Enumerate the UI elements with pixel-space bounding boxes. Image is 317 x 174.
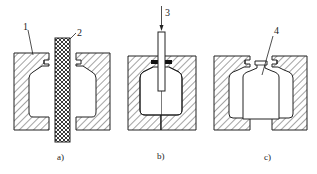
panel-a: 1 2 a)	[14, 21, 110, 162]
caption-b: b)	[157, 151, 165, 161]
blow-pin	[158, 32, 165, 91]
mold-closed-left	[128, 56, 161, 130]
mold-right-half	[76, 53, 110, 130]
panel-b: 3 b)	[128, 6, 196, 161]
caption-c: c)	[264, 152, 271, 162]
air-arrow-head	[160, 25, 164, 31]
caption-a: a)	[57, 152, 64, 162]
callout-3-label: 3	[165, 7, 170, 18]
callout-1-leader	[28, 30, 33, 55]
mold-left-half	[14, 53, 49, 130]
mold-closed-right	[161, 56, 196, 130]
panel-c: 4 c)	[214, 25, 307, 162]
callout-1-label: 1	[23, 21, 28, 32]
callout-2-label: 2	[77, 27, 82, 38]
finished-bottle	[243, 61, 279, 119]
parison	[55, 38, 70, 142]
callout-2-leader	[70, 33, 76, 39]
callout-4-label: 4	[274, 25, 279, 36]
blow-molding-diagram: 1 2 a) 3 b)	[0, 0, 317, 174]
